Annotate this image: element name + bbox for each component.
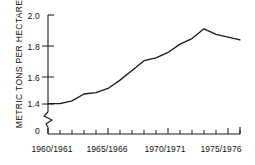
axes-group [42, 15, 240, 134]
yield-series-line [48, 29, 240, 104]
y-axis-break-symbol [44, 112, 52, 127]
x-tick-marks [48, 128, 240, 134]
chart-plot-area [0, 0, 255, 165]
chart-container: METRIC TONS PER HECTARE 2.0 1.8 1.6 1.4 … [0, 0, 255, 165]
